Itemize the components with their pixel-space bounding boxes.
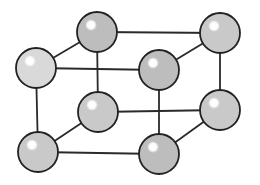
atom-back-top-right <box>200 13 240 53</box>
atom-front-bottom-right <box>139 134 179 174</box>
sphere-highlight <box>208 97 220 109</box>
atom-front-bottom-left <box>18 132 58 172</box>
sphere-highlight <box>147 57 159 69</box>
atom-back-top-left <box>77 12 117 52</box>
sphere-highlight <box>26 139 38 151</box>
sphere-highlight <box>208 20 220 32</box>
crystal-lattice-diagram <box>0 0 260 185</box>
lattice-bonds <box>36 32 220 154</box>
atom-back-bottom-right <box>200 90 240 130</box>
lattice-atoms <box>16 12 240 174</box>
atom-front-top-right <box>139 50 179 90</box>
sphere-icon <box>200 13 240 53</box>
atom-back-bottom-left <box>78 92 118 132</box>
sphere-highlight <box>85 19 97 31</box>
sphere-icon <box>200 90 240 130</box>
sphere-highlight <box>86 99 98 111</box>
sphere-icon <box>78 92 118 132</box>
sphere-icon <box>139 134 179 174</box>
sphere-icon <box>16 48 56 88</box>
sphere-highlight <box>24 55 36 67</box>
sphere-icon <box>18 132 58 172</box>
sphere-icon <box>139 50 179 90</box>
sphere-highlight <box>147 141 159 153</box>
sphere-icon <box>77 12 117 52</box>
atom-front-top-left <box>16 48 56 88</box>
